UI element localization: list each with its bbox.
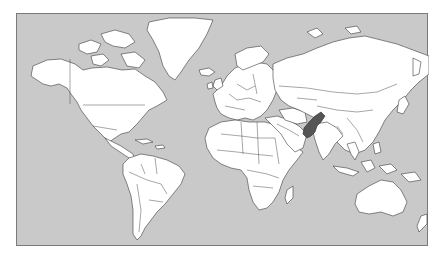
world-map: Pakistan xyxy=(16,13,428,246)
south-america xyxy=(123,154,185,240)
europe xyxy=(207,46,279,120)
north-america xyxy=(31,30,167,160)
iceland xyxy=(199,68,215,76)
australia xyxy=(355,180,407,216)
new-zealand xyxy=(417,214,427,232)
map-svg xyxy=(17,14,429,247)
